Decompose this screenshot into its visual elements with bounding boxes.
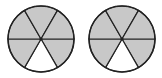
circle-1 [8,6,74,72]
fraction-diagram [0,0,162,78]
center-dot [120,37,123,40]
circle-2 [89,6,155,72]
center-dot [39,37,42,40]
